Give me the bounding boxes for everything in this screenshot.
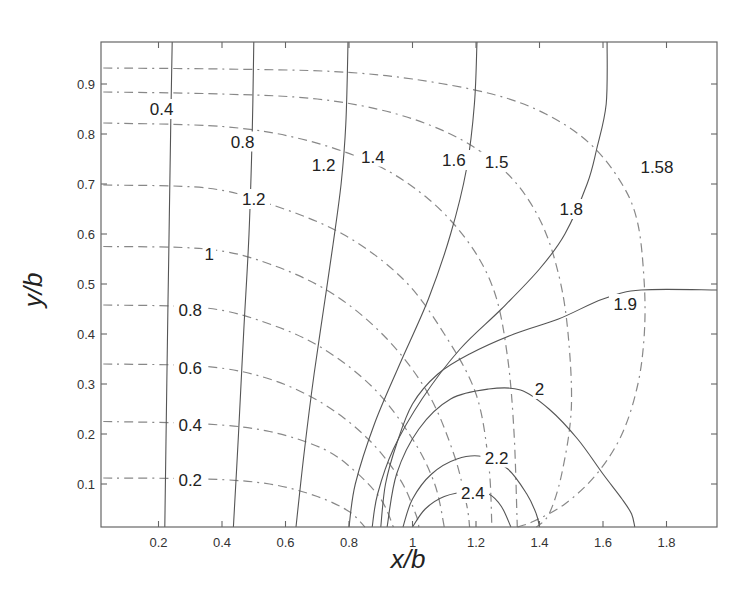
solid-contour-label: 1.6 bbox=[442, 151, 466, 170]
solid-contour-0.8 bbox=[233, 42, 253, 527]
solid-contour-label: 2.2 bbox=[485, 449, 509, 468]
dashed-contour-label: 0.8 bbox=[178, 301, 202, 320]
x-tick-label: 0.4 bbox=[213, 535, 231, 550]
dashed-contour-label: 1 bbox=[205, 245, 214, 264]
solid-contour-label: 0.4 bbox=[150, 100, 174, 119]
dashed-contour-label: 1.2 bbox=[242, 190, 266, 209]
dashed-contour-label: 1.4 bbox=[361, 148, 385, 167]
solid-contour-1.9 bbox=[381, 289, 717, 527]
y-tick-label: 0.6 bbox=[77, 227, 95, 242]
x-tick-label: 1.6 bbox=[594, 535, 612, 550]
solid-contour-label: 1.8 bbox=[559, 200, 583, 219]
y-axis-title: y/b bbox=[18, 273, 48, 310]
dashed-contour-label: 1.5 bbox=[485, 153, 509, 172]
solid-contour-label: 0.8 bbox=[231, 133, 255, 152]
x-axis-title: x/b bbox=[389, 544, 426, 574]
dashed-contour-layer bbox=[103, 68, 645, 527]
y-tick-label: 0.2 bbox=[77, 427, 95, 442]
solid-contour-layer bbox=[165, 42, 717, 527]
solid-contour-label: 1.9 bbox=[613, 295, 637, 314]
dashed-contour-label: 1.58 bbox=[640, 158, 673, 177]
y-tick-label: 0.9 bbox=[77, 77, 95, 92]
y-tick-label: 0.7 bbox=[77, 177, 95, 192]
x-tick-label: 0.2 bbox=[149, 535, 167, 550]
y-tick-label: 0.1 bbox=[77, 477, 95, 492]
dashed-contour-label: 0.4 bbox=[178, 416, 202, 435]
solid-contour-1.2 bbox=[296, 42, 348, 527]
dashed-contour-1 bbox=[103, 247, 469, 528]
x-tick-label: 0.6 bbox=[276, 535, 294, 550]
x-tick-label: 1.2 bbox=[467, 535, 485, 550]
y-tick-label: 0.8 bbox=[77, 127, 95, 142]
solid-contour-label: 2 bbox=[535, 380, 544, 399]
solid-contour-label: 1.2 bbox=[312, 156, 336, 175]
dashed-contour-0.4 bbox=[103, 422, 393, 528]
solid-contour-label: 2.4 bbox=[461, 484, 485, 503]
y-tick-label: 0.3 bbox=[77, 377, 95, 392]
x-tick-label: 1.8 bbox=[657, 535, 675, 550]
dashed-contour-label: 0.2 bbox=[178, 471, 202, 490]
solid-contour-1.6 bbox=[349, 42, 477, 527]
dashed-contour-label: 0.6 bbox=[178, 359, 202, 378]
y-tick-label: 0.4 bbox=[77, 327, 95, 342]
dashed-contour-1.2 bbox=[103, 185, 492, 527]
dashed-contour-0.6 bbox=[103, 364, 419, 527]
x-tick-label: 1.4 bbox=[530, 535, 548, 550]
x-tick-label: 0.8 bbox=[340, 535, 358, 550]
plot-frame bbox=[101, 42, 717, 527]
contour-plot: 0.20.40.60.811.21.41.51.580.40.81.21.61.… bbox=[0, 0, 752, 604]
y-tick-label: 0.5 bbox=[77, 277, 95, 292]
dashed-contour-0.8 bbox=[103, 305, 444, 527]
